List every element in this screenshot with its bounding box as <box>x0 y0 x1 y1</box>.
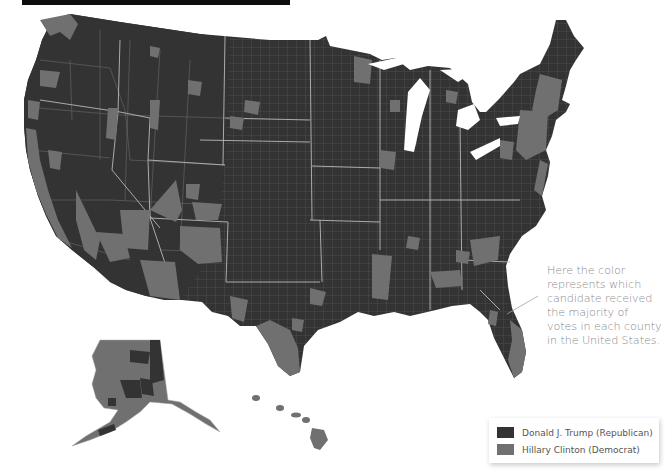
annotation-line: the majority of <box>547 306 671 320</box>
annotation-line: candidate received <box>547 292 671 306</box>
annotation-line: Here the color <box>547 264 671 278</box>
legend-item-democrat: Hillary Clinton (Democrat) <box>497 441 659 458</box>
annotation-leader-line <box>507 296 538 314</box>
annotation-line: represents which <box>547 278 671 292</box>
hawaii-shape <box>252 395 328 450</box>
legend-label: Hillary Clinton (Democrat) <box>522 445 640 455</box>
democrat-color-swatch <box>497 444 514 455</box>
annotation-line: votes in each county <box>547 320 671 334</box>
map-legend: Donald J. Trump (Republican) Hillary Cli… <box>489 418 659 463</box>
map-annotation: Here the color represents which candidat… <box>547 264 671 348</box>
us-county-election-map <box>0 0 671 472</box>
annotation-line: in the United States. <box>547 334 671 348</box>
legend-item-republican: Donald J. Trump (Republican) <box>497 424 659 441</box>
republican-color-swatch <box>497 427 514 438</box>
legend-label: Donald J. Trump (Republican) <box>522 428 653 438</box>
